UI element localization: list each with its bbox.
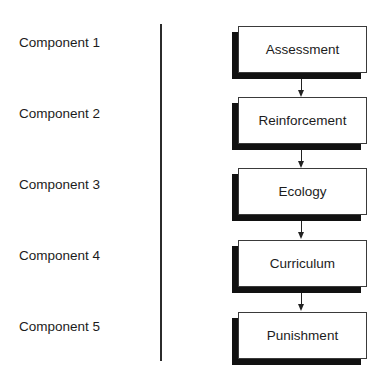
node-curriculum: Curriculum [238,240,367,287]
node-label: Punishment [238,312,367,359]
arrow-down-icon [298,232,304,239]
node-reinforcement: Reinforcement [238,97,367,144]
arrow-down-icon [298,304,304,311]
component-label-5: Component 5 [19,319,100,335]
component-label-1: Component 1 [19,35,100,51]
component-label-4: Component 4 [19,248,100,264]
component-label-2: Component 2 [19,106,100,122]
node-label: Assessment [238,26,367,73]
node-punishment: Punishment [238,312,367,359]
node-assessment: Assessment [238,26,367,73]
arrow-down-icon [298,161,304,168]
node-label: Ecology [238,168,367,215]
vertical-divider [160,24,162,361]
arrow-down-icon [298,90,304,97]
node-label: Reinforcement [238,97,367,144]
node-ecology: Ecology [238,168,367,215]
component-label-3: Component 3 [19,177,100,193]
node-label: Curriculum [238,240,367,287]
